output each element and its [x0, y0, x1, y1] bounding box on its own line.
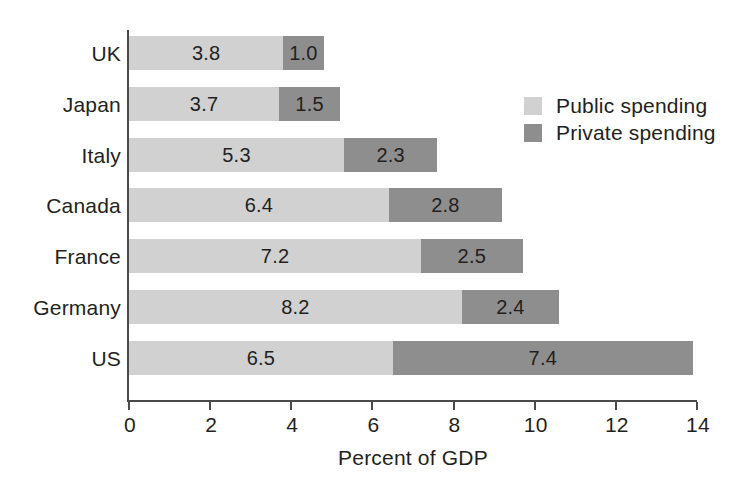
bar-value-label: 7.2	[261, 246, 289, 266]
bar-value-label: 6.4	[245, 195, 273, 215]
x-axis-line	[127, 400, 697, 402]
x-tick-label-10: 10	[516, 413, 556, 437]
x-tick-10	[534, 402, 536, 410]
bar-segment: 7.2	[129, 239, 421, 273]
x-tick-label-12: 12	[597, 413, 637, 437]
bar-segment: 2.3	[344, 138, 437, 172]
bar-segment: 2.4	[462, 290, 559, 324]
bar-segment: 7.4	[393, 341, 693, 375]
legend-label: Public spending	[556, 95, 707, 116]
x-tick-6	[371, 402, 373, 410]
x-tick-label-8: 8	[435, 413, 475, 437]
category-label-italy: Italy	[1, 145, 121, 166]
bar-segment: 6.5	[129, 341, 393, 375]
legend-label: Private spending	[556, 122, 716, 143]
legend: Public spendingPrivate spending	[524, 92, 716, 146]
bar-row: 8.22.4	[129, 290, 697, 324]
bar-segment: 1.0	[283, 36, 324, 70]
x-tick-label-6: 6	[353, 413, 393, 437]
bar-segment: 1.5	[279, 87, 340, 121]
x-tick-label-14: 14	[678, 413, 718, 437]
legend-swatch-icon	[524, 97, 542, 115]
bar-value-label: 5.3	[222, 145, 250, 165]
category-label-canada: Canada	[1, 195, 121, 216]
y-axis-category-labels: UKJapanItalyCanadaFranceGermanyUS	[0, 30, 121, 400]
bar-segment: 2.8	[389, 188, 503, 222]
bar-value-label: 3.7	[190, 94, 218, 114]
category-label-japan: Japan	[1, 94, 121, 115]
bar-value-label: 2.5	[458, 246, 486, 266]
x-tick-12	[615, 402, 617, 410]
bar-segment: 8.2	[129, 290, 462, 324]
plot-area: 02468101214 3.81.03.71.55.32.36.42.87.22…	[129, 30, 697, 400]
bar-segment: 2.5	[421, 239, 522, 273]
bar-value-label: 6.5	[247, 348, 275, 368]
legend-item: Public spending	[524, 92, 716, 119]
x-tick-label-2: 2	[191, 413, 231, 437]
bar-row: 7.22.5	[129, 239, 697, 273]
bar-value-label: 2.3	[376, 145, 404, 165]
x-axis-title: Percent of GDP	[129, 446, 697, 470]
bar-segment: 3.7	[129, 87, 279, 121]
x-tick-0	[128, 402, 130, 410]
x-tick-label-4: 4	[272, 413, 312, 437]
bar-value-label: 1.5	[295, 94, 323, 114]
x-tick-14	[696, 402, 698, 410]
bar-value-label: 2.4	[496, 297, 524, 317]
bar-value-label: 7.4	[529, 348, 557, 368]
bar-segment: 6.4	[129, 188, 389, 222]
bar-row: 6.57.4	[129, 341, 697, 375]
category-label-germany: Germany	[1, 297, 121, 318]
legend-swatch-icon	[524, 124, 542, 142]
bar-value-label: 1.0	[289, 43, 317, 63]
legend-item: Private spending	[524, 119, 716, 146]
x-tick-label-0: 0	[110, 413, 150, 437]
bar-value-label: 2.8	[431, 195, 459, 215]
bar-value-label: 8.2	[281, 297, 309, 317]
category-label-uk: UK	[1, 43, 121, 64]
x-tick-2	[209, 402, 211, 410]
bar-segment: 3.8	[129, 36, 283, 70]
bar-row: 6.42.8	[129, 188, 697, 222]
bar-value-label: 3.8	[192, 43, 220, 63]
bar-segment: 5.3	[129, 138, 344, 172]
category-label-us: US	[1, 348, 121, 369]
x-tick-4	[290, 402, 292, 410]
category-label-france: France	[1, 246, 121, 267]
bar-row: 3.81.0	[129, 36, 697, 70]
stacked-bar-chart: UKJapanItalyCanadaFranceGermanyUS 024681…	[0, 0, 736, 483]
x-tick-8	[453, 402, 455, 410]
